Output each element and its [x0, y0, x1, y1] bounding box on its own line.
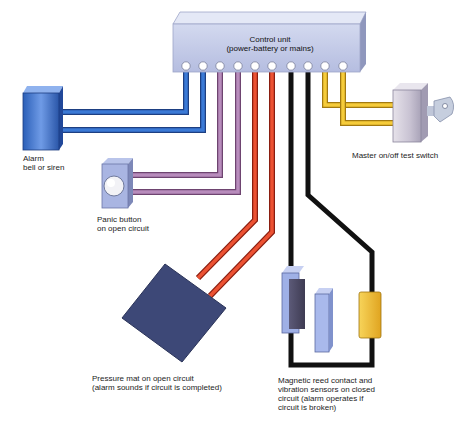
alarm-bell-icon: [23, 86, 63, 150]
terminal: [287, 62, 295, 70]
terminal: [199, 62, 207, 70]
terminal: [216, 62, 224, 70]
terminal: [234, 62, 242, 70]
sensors-label: Magnetic reed contact and vibration sens…: [278, 376, 375, 412]
alarm-label: Alarm bell or siren: [23, 154, 64, 172]
blue-wires: [62, 70, 203, 130]
control-unit-label: Control unit (power-battery or mains): [190, 35, 350, 53]
yellow-wires: [325, 70, 398, 123]
wiring-diagram: [0, 0, 467, 432]
terminal: [251, 62, 259, 70]
pressure-mat-label: Pressure mat on open circuit (alarm soun…: [92, 374, 222, 392]
terminal: [268, 62, 276, 70]
terminal: [304, 62, 312, 70]
terminal: [339, 62, 347, 70]
panic-button-label: Panic button on open circuit: [97, 215, 149, 233]
panic-button-icon: [102, 158, 133, 208]
terminal: [182, 62, 190, 70]
vibration-sensor-icon: [359, 292, 381, 338]
pressure-mat-icon: [122, 264, 226, 362]
master-switch-label: Master on/off test switch: [352, 151, 438, 160]
terminal: [321, 62, 329, 70]
master-switch-icon: [393, 83, 454, 142]
